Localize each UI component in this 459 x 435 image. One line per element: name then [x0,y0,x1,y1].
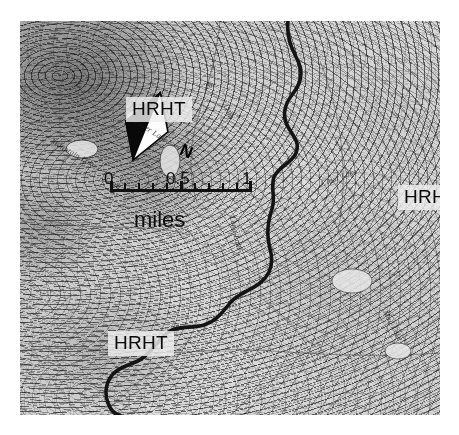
scale-tick-minor-6 [194,183,196,190]
topographic-map-screenshot: Beaver Lake Mountain Lake Long Lake Clea… [0,0,459,435]
scale-tick-major-0 [110,181,113,190]
scale-tick-minor-4 [166,183,168,190]
scale-tick-minor-7 [208,183,210,190]
region-label-hrht-top: HRHT [126,97,192,122]
scale-tick-minor-8 [222,183,224,190]
scale-tick-minor-1 [124,183,126,190]
scale-bar-rule [110,189,252,201]
region-label-hrht-right: HRHT [398,185,440,210]
north-arrow-letter: N [176,140,195,163]
scale-tick-minor-2 [138,183,140,190]
scale-tick-minor-3 [152,183,154,190]
map-canvas[interactable]: Beaver Lake Mountain Lake Long Lake Clea… [20,21,440,415]
scale-bar-units: miles [134,207,185,233]
scale-tick-label-half: 0.5 [166,169,190,189]
scale-bar: 0 0.5 1 miles [90,169,272,201]
region-label-hrht-lower-left: HRHT [108,331,174,356]
scale-tick-major-half [180,181,183,190]
scale-tick-minor-9 [236,183,238,190]
scale-tick-major-1 [249,181,252,190]
